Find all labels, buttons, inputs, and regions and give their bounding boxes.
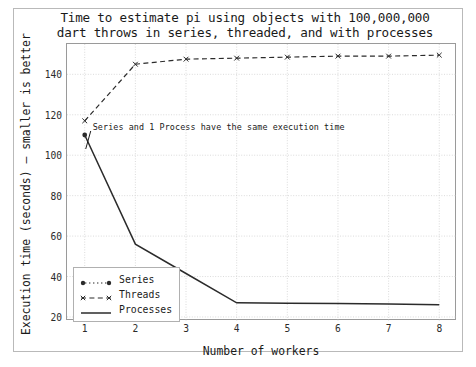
x-axis-label: Number of workers: [66, 344, 456, 358]
chart-title: Time to estimate pi using objects with 1…: [40, 10, 450, 40]
legend-label-threads: Threads: [119, 289, 160, 300]
y-tick-80: 80: [50, 190, 62, 201]
legend-item-series[interactable]: Series: [79, 272, 172, 287]
legend-swatch-processes: [79, 304, 113, 316]
y-tick-20: 20: [50, 311, 62, 322]
plot-area: 14012010080604020 12345678 Series and 1 …: [66, 43, 456, 320]
x-tick-6: 6: [335, 323, 341, 334]
legend-swatch-threads: [79, 289, 113, 301]
chart-legend: SeriesThreadsProcesses: [73, 267, 180, 322]
x-tick-1: 1: [82, 323, 88, 334]
series-line-threads: [85, 55, 440, 121]
legend-swatch-series: [79, 274, 113, 286]
chart-figure: Time to estimate pi using objects with 1…: [0, 0, 476, 367]
x-tick-2: 2: [132, 323, 138, 334]
y-tick-120: 120: [45, 109, 62, 120]
legend-item-processes[interactable]: Processes: [79, 302, 172, 317]
y-tick-100: 100: [45, 150, 62, 161]
x-tick-3: 3: [183, 323, 189, 334]
x-tick-8: 8: [436, 323, 442, 334]
x-tick-5: 5: [284, 323, 290, 334]
legend-label-processes: Processes: [119, 304, 172, 315]
y-axis-label: Execution time (seconds) – smaller is be…: [19, 35, 33, 335]
legend-label-series: Series: [119, 274, 154, 285]
y-tick-60: 60: [50, 231, 62, 242]
y-tick-40: 40: [50, 271, 62, 282]
x-tick-4: 4: [234, 323, 240, 334]
y-tick-140: 140: [45, 69, 62, 80]
legend-item-threads[interactable]: Threads: [79, 287, 172, 302]
annotation-text: Series and 1 Process have the same execu…: [93, 122, 345, 132]
x-tick-7: 7: [386, 323, 392, 334]
